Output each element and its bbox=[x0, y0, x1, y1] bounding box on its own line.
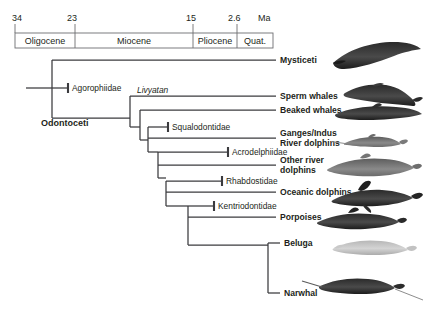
label-odontoceti: Odontoceti bbox=[41, 118, 89, 128]
silhouettes bbox=[302, 42, 423, 300]
epoch-label-miocene: Miocene bbox=[117, 36, 151, 46]
tick-label-34: 34 bbox=[12, 13, 22, 23]
figure-canvas: 34 23 15 2.6 Ma Oligocene Miocene Plioce… bbox=[0, 0, 424, 312]
tip-label-other-river: Other river bbox=[280, 155, 325, 165]
tick-label-15: 15 bbox=[186, 13, 196, 23]
tip-label-other-river-2: dolphins bbox=[280, 165, 316, 175]
tip-label-mysticeti: Mysticeti bbox=[280, 55, 317, 65]
tip-label-beluga: Beluga bbox=[284, 238, 313, 248]
tick-label-2-6: 2.6 bbox=[228, 13, 241, 23]
unit-label-ma: Ma bbox=[258, 13, 271, 23]
tip-label-sperm-whales: Sperm whales bbox=[280, 91, 338, 101]
label-livyatan: Livyatan bbox=[137, 85, 169, 95]
tip-label-ganges-indus: Ganges/Indus bbox=[280, 128, 337, 138]
label-rhabdostidae: Rhabdostidae bbox=[226, 176, 278, 186]
epoch-label-pliocene: Pliocene bbox=[198, 36, 233, 46]
label-agorophiidae: Agorophiidae bbox=[72, 83, 122, 93]
tip-labels: Mysticeti Sperm whales Beaked whales Gan… bbox=[280, 55, 352, 298]
narwhal-silhouette bbox=[302, 278, 423, 300]
beluga-silhouette bbox=[333, 240, 417, 255]
beaked-whale-silhouette bbox=[335, 103, 422, 120]
sperm-whale-silhouette bbox=[344, 83, 423, 106]
tip-label-ganges-indus-2: River dolphins bbox=[280, 138, 340, 148]
tip-label-beaked-whales: Beaked whales bbox=[280, 105, 342, 115]
tip-label-narwhal: Narwhal bbox=[284, 288, 317, 298]
epoch-label-quat: Quat. bbox=[244, 36, 266, 46]
tick-label-23: 23 bbox=[67, 13, 77, 23]
tip-label-oceanic-dolphins: Oceanic dolphins bbox=[280, 187, 352, 197]
label-squalodontidae: Squalodontidae bbox=[172, 122, 231, 132]
tip-label-porpoises: Porpoises bbox=[280, 212, 322, 222]
oceanic-dolphin-silhouette bbox=[332, 181, 423, 213]
phylogenetic-tree-figure: 34 23 15 2.6 Ma Oligocene Miocene Plioce… bbox=[0, 0, 424, 312]
porpoise-silhouette bbox=[317, 208, 407, 230]
timescale: 34 23 15 2.6 Ma Oligocene Miocene Plioce… bbox=[12, 13, 273, 48]
river-dolphin-silhouette bbox=[331, 134, 408, 147]
baleen-whale-silhouette bbox=[333, 42, 421, 69]
other-river-dolphin-silhouette bbox=[327, 154, 422, 177]
label-kentriodontidae: Kentriodontidae bbox=[218, 201, 277, 211]
epoch-label-oligocene: Oligocene bbox=[25, 36, 66, 46]
